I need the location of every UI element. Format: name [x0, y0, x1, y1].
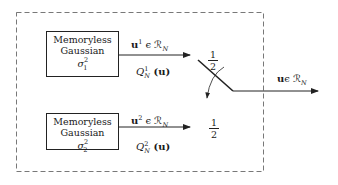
source-1-output-label: u1 ϵ ℛN	[131, 37, 168, 55]
source-1-line2: Gaussian	[47, 46, 118, 57]
source-2-probability: 12	[209, 118, 219, 139]
output-label: uϵ ℛN	[277, 73, 307, 89]
source-1-distribution-label: Q1N (u)	[136, 64, 170, 82]
source-1-variance: σ21	[47, 56, 118, 74]
source-1-line1: Memoryless	[47, 35, 118, 46]
source-2-output-label: u2 ϵ ℛN	[131, 113, 168, 131]
source-2-line1: Memoryless	[47, 117, 118, 128]
source-2-variance: σ22	[47, 138, 118, 156]
source-2-line2: Gaussian	[47, 128, 118, 139]
source-2-block: Memoryless Gaussian σ22	[46, 113, 119, 150]
source-2-distribution-label: Q2N (u)	[136, 139, 170, 157]
source-1-block: Memoryless Gaussian σ21	[46, 31, 119, 77]
source-1-probability: 12	[208, 50, 218, 71]
